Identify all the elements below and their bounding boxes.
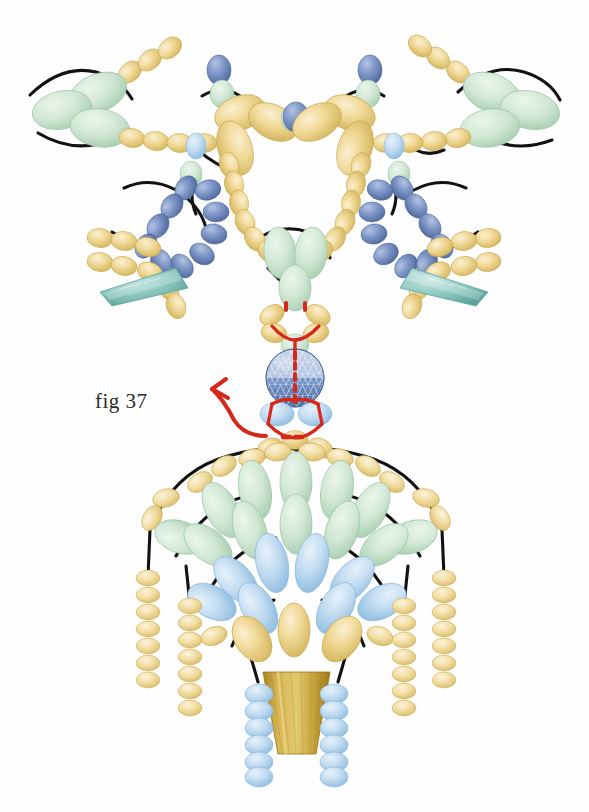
blue-accent-bead-left xyxy=(186,133,206,159)
fringe-blue-left xyxy=(245,684,273,787)
beadwork-illustration xyxy=(0,0,589,812)
figure-canvas: fig 37 xyxy=(0,0,589,812)
figure-caption: fig 37 xyxy=(95,389,148,414)
fringe-blue-right xyxy=(320,684,348,787)
blue-accent-bead-right xyxy=(384,133,404,159)
